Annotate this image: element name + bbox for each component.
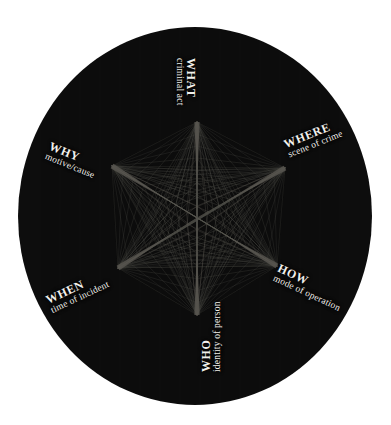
star-diagram [0,0,391,425]
figure-canvas: WHAT criminal act WHERE scene of crime H… [0,0,391,425]
